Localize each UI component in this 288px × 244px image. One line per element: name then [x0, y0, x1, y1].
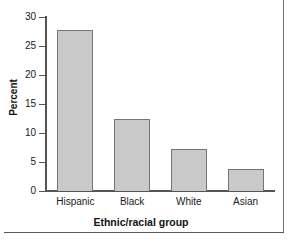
y-axis-tick-mark — [39, 191, 46, 192]
bar-asian — [228, 169, 264, 191]
bar-black — [114, 119, 150, 191]
y-axis-tick-mark — [39, 46, 46, 47]
figure-bottom-rule — [4, 232, 284, 233]
y-axis-tick-label: 20 — [0, 70, 36, 80]
y-axis-tick-label: 30 — [0, 12, 36, 22]
y-axis-tick-mark — [39, 75, 46, 76]
y-axis-tick-label: 5 — [0, 157, 36, 167]
y-axis-tick-label: 10 — [0, 128, 36, 138]
y-axis-tick-mark — [39, 104, 46, 105]
bar-hispanic — [57, 30, 93, 191]
x-axis-title: Ethnic/racial group — [0, 216, 282, 228]
y-axis-tick-label: 0 — [0, 186, 36, 196]
y-axis-tick-label: 15 — [0, 99, 36, 109]
x-axis-category-label: Asian — [201, 196, 288, 207]
y-axis-tick-mark — [39, 17, 46, 18]
y-axis-tick-label: 25 — [0, 41, 36, 51]
bar-chart-figure: Percent Ethnic/racial group 051015202530… — [0, 0, 288, 244]
bar-white — [171, 149, 207, 191]
y-axis-tick-mark — [39, 162, 46, 163]
y-axis-tick-mark — [39, 133, 46, 134]
